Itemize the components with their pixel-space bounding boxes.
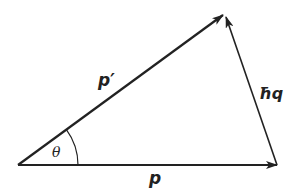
angle-arc bbox=[66, 130, 78, 165]
triangle-svg bbox=[0, 0, 299, 194]
label-p: p bbox=[149, 170, 161, 187]
vector-p-prime bbox=[18, 15, 223, 165]
label-p-prime: p′ bbox=[98, 72, 115, 89]
vector-diagram: p′ θ ħq p bbox=[0, 0, 299, 194]
label-theta: θ bbox=[52, 145, 60, 159]
label-hbar-q: ħq bbox=[259, 86, 283, 102]
